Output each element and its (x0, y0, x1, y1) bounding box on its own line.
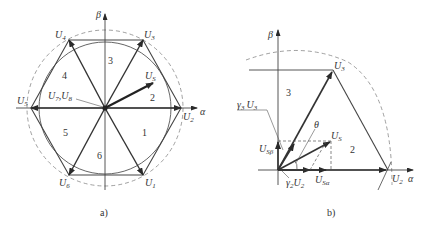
sector-6: 6 (97, 150, 102, 161)
label-u3: U3 (144, 29, 155, 42)
vector-u6 (69, 108, 105, 175)
label-u2-b: U2 (392, 173, 403, 186)
sector-3: 3 (108, 55, 113, 66)
sector-4: 4 (62, 70, 67, 81)
hexagon-edge-u3-u2 (333, 70, 388, 170)
zero-vector-leader (76, 99, 103, 107)
label-us-b: US (331, 130, 342, 143)
caption-a: a) (100, 207, 108, 219)
label-u3-b: U3 (334, 60, 345, 73)
label-us-alpha: USα (315, 174, 330, 187)
sector-2: 2 (150, 92, 155, 103)
label-u2: U2 (183, 111, 194, 124)
sector-2-b: 2 (350, 144, 355, 155)
label-theta: θ (314, 119, 319, 130)
label-u1: U1 (145, 177, 156, 190)
dashed-arc (246, 50, 392, 185)
sector-1: 1 (142, 127, 147, 138)
label-u6: U6 (59, 177, 70, 190)
sector-5: 5 (63, 127, 68, 138)
origin-dot (102, 105, 107, 110)
beta-label-b: β (267, 29, 273, 40)
label-us: US (145, 70, 156, 83)
svpwm-diagram: β α U4 U3 U5 U2 U6 U1 US U7,U8 1 2 3 4 5… (0, 0, 427, 232)
alpha-label-b: α (408, 173, 414, 184)
label-us-beta: USβ (259, 143, 274, 156)
figure-a: β α U4 U3 U5 U2 U6 U1 US U7,U8 1 2 3 4 5… (16, 9, 206, 219)
projection-parallel (310, 142, 326, 170)
figure-b: β α U3 U2 US γ3U3 γ2U2 USβ USα θ 3 2 b) (237, 29, 414, 219)
label-gamma2-u2: γ2U2 (286, 177, 305, 190)
beta-label: β (95, 9, 101, 20)
vector-u4 (69, 40, 105, 108)
theta-leader (296, 129, 315, 163)
caption-b: b) (327, 207, 335, 219)
u2-tick (378, 162, 391, 190)
vector-u1 (105, 108, 143, 175)
sector-3-b: 3 (286, 87, 291, 98)
alpha-label: α (200, 106, 206, 117)
label-u4: U4 (55, 29, 66, 42)
label-u7-u8: U7,U8 (48, 90, 72, 103)
label-u5: U5 (17, 95, 28, 108)
